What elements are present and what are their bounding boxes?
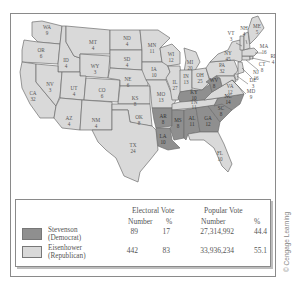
svg-text:RI4: RI4 — [270, 53, 275, 65]
results-table: Electoral Vote Popular Vote Number % Num… — [15, 199, 271, 267]
electoral-percent: 17 — [163, 227, 171, 236]
svg-text:AL11: AL11 — [189, 115, 196, 127]
democrat-swatch — [22, 228, 42, 240]
svg-text:WI12: WI12 — [168, 51, 175, 63]
popular-number: 33,936,234 — [200, 246, 234, 255]
electoral-percent: 83 — [163, 246, 171, 255]
republican-swatch — [22, 246, 42, 258]
popular-percent: 55.1 — [254, 246, 267, 255]
state-ri — [250, 56, 253, 59]
popular-number: 27,314,992 — [200, 227, 234, 236]
svg-text:MA16: MA16 — [260, 43, 269, 55]
svg-text:MI20: MI20 — [187, 59, 194, 71]
svg-text:IA10: IA10 — [151, 66, 157, 78]
electoral-number: 442 — [127, 246, 138, 255]
popular-number-header: Number — [201, 217, 226, 226]
us-electoral-map: WA9 OR6 CA32 ID4 NV3 MT4 WY3 UT4 CO6 AZ4… — [0, 0, 297, 200]
svg-text:MD9: MD9 — [247, 88, 256, 100]
popular-percent-header: % — [254, 217, 260, 226]
state-vt — [240, 36, 244, 50]
copyright-credit: © Cengage Learning — [283, 212, 290, 272]
state-nj — [238, 62, 244, 74]
svg-text:CT8: CT8 — [259, 61, 266, 73]
electoral-number-header: Number — [128, 217, 153, 226]
svg-text:IL27: IL27 — [172, 79, 178, 91]
state-fl — [188, 132, 232, 172]
candidate-eisenhower: Eisenhower (Republican) — [48, 244, 86, 260]
electoral-number: 89 — [131, 227, 139, 236]
candidate-stevenson: Stevenson (Democrat) — [48, 226, 81, 242]
electoral-percent-header: % — [166, 217, 172, 226]
svg-text:VT3: VT3 — [228, 30, 236, 42]
state-ct — [242, 56, 250, 60]
svg-text:PA32: PA32 — [219, 62, 225, 74]
electoral-vote-header: Electoral Vote — [132, 206, 174, 215]
popular-vote-header: Popular Vote — [204, 206, 243, 215]
svg-text:IN13: IN13 — [183, 73, 189, 85]
popular-percent: 44.4 — [254, 227, 267, 236]
svg-text:FL10: FL10 — [217, 150, 223, 162]
state-mt — [66, 26, 110, 58]
